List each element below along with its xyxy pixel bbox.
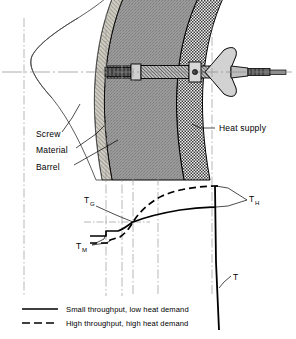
svg-text:M: M [82,247,87,253]
svg-text:G: G [90,201,95,207]
leader-tg [96,206,133,222]
leader-th [216,186,247,200]
svg-text:T: T [84,195,89,205]
annotation-tm: T M [76,241,87,253]
plot-annotation-leaders [92,186,247,288]
legend-label-solid: Small throughput, low heat demand [66,305,189,314]
legend-label-dashed: High throughput, high heat demand [66,319,188,328]
leader-t-axis [219,276,231,288]
legend: Small throughput, low heat demand High t… [22,305,189,328]
svg-text:H: H [255,200,259,206]
annotation-th: T H [249,194,259,206]
label-screw: Screw [36,129,61,139]
svg-text:T: T [76,241,81,251]
label-barrel: Barrel [36,162,60,172]
figure-root: Screw Material Barrel Heat supply T G [0,0,296,339]
annotation-t-axis: T [233,272,238,282]
curve-high-throughput [90,186,214,243]
label-heat-supply: Heat supply [219,123,267,133]
svg-text:T: T [249,194,254,204]
annotation-tg: T G [84,195,95,207]
label-material: Material [36,145,68,155]
curve-drop-to-axis [215,186,219,330]
leader-th-2 [216,200,247,207]
